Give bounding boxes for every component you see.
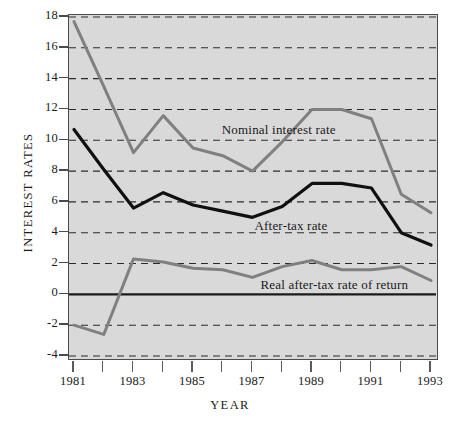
x-axis-title: YEAR xyxy=(0,398,460,413)
y-axis-tick-mark xyxy=(59,200,68,201)
x-axis-tick-mark xyxy=(429,361,430,372)
x-axis-tick-mark xyxy=(281,361,282,372)
series-annotation-0: Nominal interest rate xyxy=(222,122,336,138)
y-axis-title: INTEREST RATES xyxy=(21,113,36,273)
x-axis-tick-mark xyxy=(310,361,311,372)
y-axis-tick-mark xyxy=(59,77,68,78)
x-axis-tick-label: 1993 xyxy=(417,374,443,389)
y-axis-tick-label: 0 xyxy=(18,286,58,298)
chart-root: -4-2024681012141618198119831985198719891… xyxy=(0,0,460,424)
y-axis-tick-mark xyxy=(59,354,68,355)
y-axis-tick-mark xyxy=(59,262,68,263)
y-axis-tick-mark xyxy=(59,293,68,294)
y-axis-tick-mark xyxy=(59,15,68,16)
x-axis-tick-label: 1983 xyxy=(119,374,145,389)
x-axis-tick-label: 1987 xyxy=(238,374,264,389)
series-line-2 xyxy=(74,259,431,335)
x-axis-tick-label: 1989 xyxy=(298,374,324,389)
x-axis-tick-mark xyxy=(400,361,401,372)
x-axis-tick-mark xyxy=(191,361,192,372)
y-axis-tick-label: 16 xyxy=(18,40,58,52)
series-line-1 xyxy=(74,129,431,245)
series-line-0 xyxy=(74,22,431,213)
x-axis-tick-mark xyxy=(251,361,252,372)
x-axis-tick-mark xyxy=(370,361,371,372)
y-axis-tick-mark xyxy=(59,323,68,324)
y-axis-tick-label: 14 xyxy=(18,71,58,83)
x-axis-tick-mark xyxy=(102,361,103,372)
series-annotation-2: Real after-tax rate of return xyxy=(260,277,408,293)
y-axis-tick-label: 18 xyxy=(18,9,58,21)
x-axis-tick-mark xyxy=(132,361,133,372)
x-axis-tick-mark xyxy=(221,361,222,372)
y-axis-tick-mark xyxy=(59,231,68,232)
y-axis-tick-mark xyxy=(59,46,68,47)
plot-svg xyxy=(69,15,436,358)
x-axis-tick-mark xyxy=(72,361,73,372)
series-annotation-1: After-tax rate xyxy=(254,218,327,234)
y-axis-tick-mark xyxy=(59,139,68,140)
x-axis-tick-mark xyxy=(162,361,163,372)
y-axis-tick-mark xyxy=(59,108,68,109)
y-axis-tick-mark xyxy=(59,169,68,170)
x-axis-tick-label: 1985 xyxy=(179,374,205,389)
plot-area xyxy=(68,14,438,360)
y-axis-tick-label: -4 xyxy=(18,348,58,360)
x-axis-tick-label: 1991 xyxy=(357,374,383,389)
x-axis-tick-label: 1981 xyxy=(60,374,86,389)
y-axis-tick-label: -2 xyxy=(18,317,58,329)
x-axis-tick-mark xyxy=(340,361,341,372)
